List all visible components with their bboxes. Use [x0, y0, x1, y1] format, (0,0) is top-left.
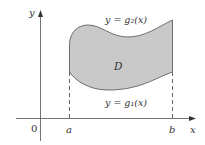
- x-axis-label: x: [190, 124, 196, 135]
- bound-label-b: b: [169, 124, 175, 135]
- bound-label-a: a: [66, 124, 72, 135]
- upper-curve-label: y = g₂(x): [104, 14, 147, 25]
- y-axis-label: y: [28, 7, 35, 18]
- region-label: D: [113, 60, 123, 72]
- origin-label: 0: [31, 123, 37, 134]
- region-diagram: y x 0 a b y = g₂(x) y = g₁(x) D: [0, 0, 205, 145]
- lower-curve-label: y = g₁(x): [104, 97, 147, 108]
- region-d: [70, 20, 173, 90]
- y-axis-arrow-icon: [38, 10, 43, 17]
- x-axis-arrow-icon: [189, 116, 196, 121]
